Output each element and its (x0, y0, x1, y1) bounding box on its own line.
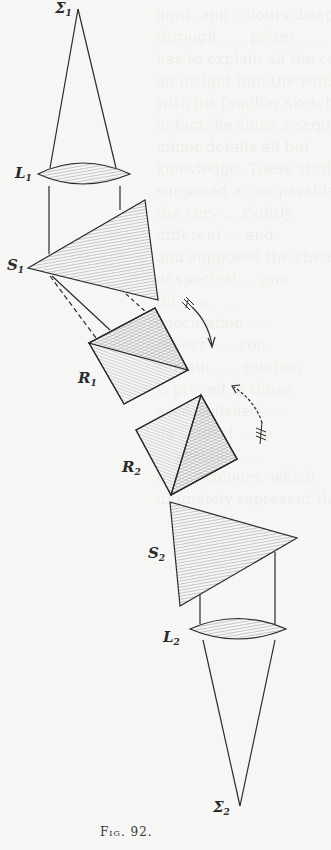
rhomb-r1 (89, 308, 188, 404)
label-rhomb-r1: R1 (78, 371, 97, 388)
label-sub: 2 (174, 637, 180, 647)
label-rhomb-r2: R2 (122, 460, 141, 477)
label-sub: 1 (66, 8, 72, 18)
prism-s1 (28, 200, 158, 300)
label-main: Σ (55, 0, 66, 17)
upper-light-cone (50, 9, 116, 168)
label-lens-1: L1 (15, 166, 32, 183)
label-lens-2: L2 (163, 630, 180, 647)
label-main: R (78, 369, 90, 387)
rotation-arrow-up-icon (232, 385, 266, 444)
rhomb-r2 (136, 395, 237, 495)
label-main: S (7, 256, 18, 274)
label-prism-s1: S1 (7, 258, 24, 275)
label-sub: 2 (134, 467, 140, 477)
label-sub: 1 (90, 378, 96, 388)
label-sub: 1 (26, 173, 32, 183)
label-sub: 1 (18, 265, 24, 275)
label-main: L (163, 628, 174, 646)
lens-2 (190, 619, 286, 640)
rotation-arrow-down-icon (182, 297, 215, 347)
label-sigma-1: Σ1 (55, 1, 72, 18)
label-main: R (122, 458, 134, 476)
lens-1 (38, 163, 130, 184)
lower-light-cone (203, 640, 275, 806)
label-main: Σ (213, 798, 224, 816)
label-main: L (15, 164, 26, 182)
figure-caption: Fig. 92. (100, 825, 153, 839)
label-sub: 2 (224, 807, 230, 817)
label-sub: 2 (159, 553, 165, 563)
prism-s2 (170, 502, 297, 606)
label-main: S (148, 544, 159, 562)
label-sigma-2: Σ2 (213, 800, 230, 817)
label-prism-s2: S2 (148, 546, 165, 563)
